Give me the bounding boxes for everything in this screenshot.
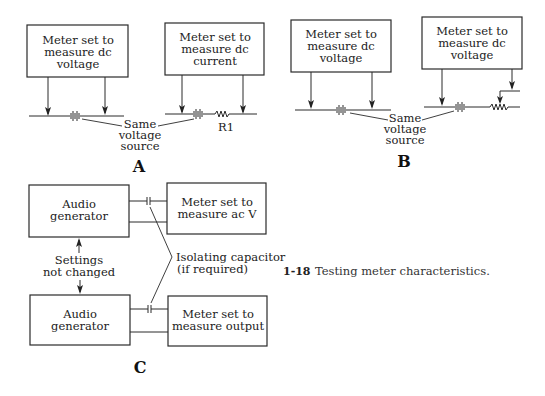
panel-label: C xyxy=(134,358,147,377)
resistor-r1-icon xyxy=(215,111,229,117)
panel-b-right-voltage-meter: Meter set to measure dc voltage xyxy=(422,17,522,69)
panel-label: B xyxy=(397,152,411,171)
battery-icon xyxy=(337,105,345,115)
panel-a-voltage-meter: Meter set to measure dc voltage xyxy=(27,25,128,77)
callout-line xyxy=(350,113,388,120)
potentiometer-icon xyxy=(490,104,508,110)
panel-b: Meter set to measure dc voltage Meter se… xyxy=(291,17,522,171)
panel-a-current-meter: Meter set to measure dc current xyxy=(165,23,264,75)
settings-note-line: not changed xyxy=(43,265,116,279)
panel-label: A xyxy=(132,157,146,176)
callout-line xyxy=(82,119,122,126)
capacitor-icon xyxy=(148,305,151,313)
source-note-line: source xyxy=(121,139,160,153)
panel-c-ac-voltage-meter: Meter set to measure ac V xyxy=(167,183,266,234)
figure-caption: 1-18 Testing meter characteristics. xyxy=(283,264,490,278)
panel-b-left-voltage-meter: Meter set to measure dc voltage xyxy=(291,20,391,72)
meter-label-line: measure ac V xyxy=(177,207,257,221)
figure-number: 1-18 xyxy=(283,265,311,278)
battery-icon xyxy=(456,102,464,112)
callout-line xyxy=(158,119,194,126)
meter-label-line: voltage xyxy=(56,57,100,71)
battery-icon xyxy=(194,109,202,119)
source-note-line: source xyxy=(386,133,425,147)
meter-label-line: voltage xyxy=(319,51,363,65)
figure-diagram: Meter set to measure dc voltage Meter se… xyxy=(0,0,545,396)
figure-caption-text: Testing meter characteristics. xyxy=(315,264,490,278)
capacitor-icon xyxy=(147,197,150,205)
panel-c-top-audio-generator: Audio generator xyxy=(29,185,129,237)
capacitor-note-line: (if required) xyxy=(177,262,248,276)
resistor-label: R1 xyxy=(218,120,234,134)
panel-c-output-meter: Meter set to measure output xyxy=(168,296,267,346)
meter-label-line: current xyxy=(193,54,237,68)
meter-label-line: voltage xyxy=(450,48,494,62)
panel-c: Audio generator Meter set to measure ac … xyxy=(29,183,286,377)
panel-c-bottom-audio-generator: Audio generator xyxy=(30,295,130,345)
battery-icon xyxy=(71,111,79,121)
callout-line xyxy=(422,111,454,120)
meter-label-line: measure output xyxy=(172,319,265,333)
generator-label-line: generator xyxy=(51,319,109,333)
panel-a: Meter set to measure dc voltage Meter se… xyxy=(27,23,264,176)
generator-label-line: generator xyxy=(50,209,108,223)
